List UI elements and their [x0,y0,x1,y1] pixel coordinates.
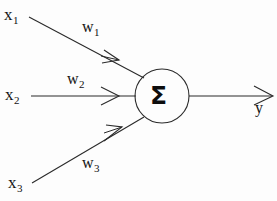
weight-label-w3: w3 [82,155,100,174]
summation-symbol: Σ [150,83,167,108]
input-label-x1: x1 [4,6,19,26]
neuron-diagram: x1 x2 x3 w1 w2 w3 Σ y [0,0,277,201]
diagram-canvas [0,0,277,201]
input-label-x3: x3 [8,174,23,194]
weight-label-w1: w1 [82,19,100,38]
input-label-x2: x2 [5,86,20,106]
weight-label-w2: w2 [67,71,85,90]
output-label-y: y [255,100,263,116]
